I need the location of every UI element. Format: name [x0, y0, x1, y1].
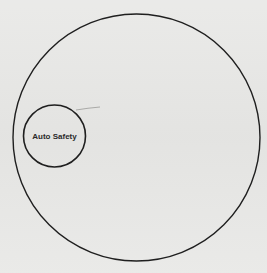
inner-circle-label: Auto Safety [32, 132, 77, 141]
diagram-canvas: Auto Safety [0, 0, 267, 273]
stray-mark [76, 107, 100, 110]
venn-diagram: Auto Safety [0, 0, 267, 273]
